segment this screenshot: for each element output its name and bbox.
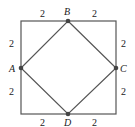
point-a-label: A [8, 63, 16, 74]
point-c-dot [114, 66, 119, 71]
point-c-label: C [120, 63, 127, 74]
label-left-top: 2 [9, 38, 14, 49]
label-left-bottom: 2 [9, 86, 14, 97]
inner-square [21, 21, 116, 114]
label-bottom-right: 2 [92, 117, 97, 127]
point-b-label: B [64, 6, 70, 17]
label-top-right: 2 [92, 8, 97, 19]
point-b-dot [66, 19, 71, 24]
outer-square [21, 21, 116, 114]
point-a-dot [19, 66, 24, 71]
point-d-dot [66, 112, 71, 117]
label-bottom-left: 2 [40, 117, 45, 127]
label-right-top: 2 [121, 38, 126, 49]
label-top-left: 2 [40, 8, 45, 19]
label-right-bottom: 2 [121, 86, 126, 97]
square-diagram: B C D A 2 2 2 2 2 2 2 2 [0, 0, 135, 127]
point-d-label: D [63, 117, 72, 127]
